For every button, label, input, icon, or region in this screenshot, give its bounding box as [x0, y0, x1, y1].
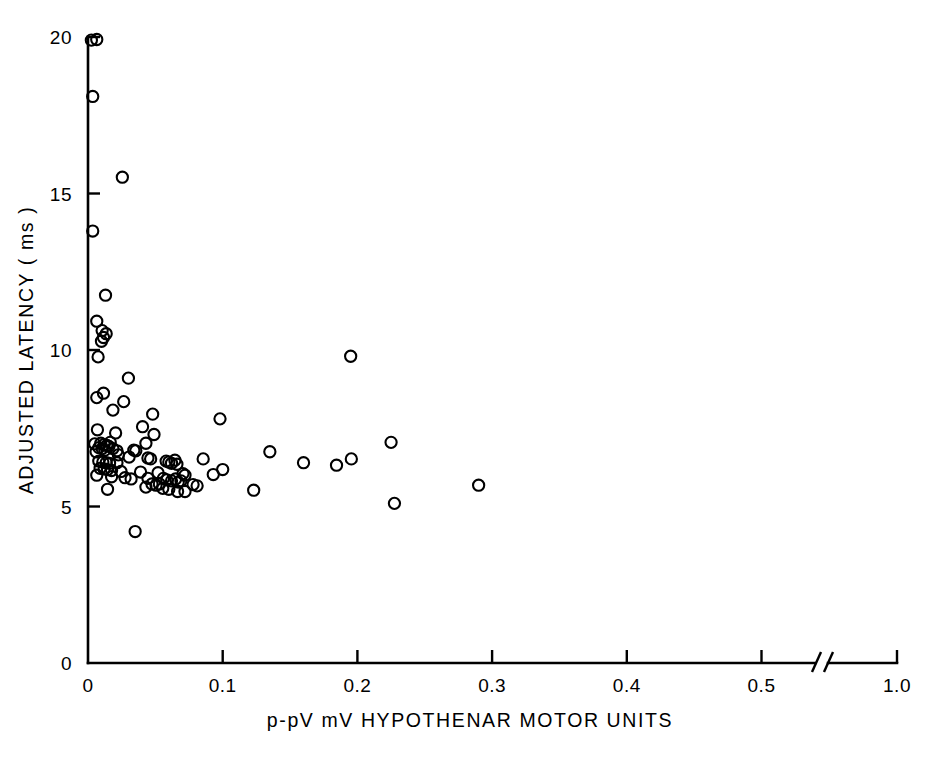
x-tick-label-0.4: 0.4: [613, 675, 641, 696]
data-point: [298, 457, 309, 468]
data-point: [346, 453, 357, 464]
y-tick-label-10: 10: [50, 340, 72, 361]
y-axis-title: ADJUSTED LATENCY ( ms ): [15, 206, 37, 495]
data-point: [179, 486, 190, 497]
x-tick-label-0.3: 0.3: [478, 675, 506, 696]
y-tick-label-20: 20: [50, 27, 72, 48]
data-point: [214, 413, 225, 424]
data-points: [86, 34, 484, 537]
data-point: [198, 453, 209, 464]
plot-canvas: 0510152000.10.20.30.40.51.0 p-pV mV HYPO…: [0, 0, 939, 760]
data-point: [123, 373, 134, 384]
data-point: [93, 351, 104, 362]
data-point: [137, 421, 148, 432]
x-tick-label-1.0: 1.0: [883, 675, 911, 696]
data-point: [473, 480, 484, 491]
data-point: [140, 438, 151, 449]
data-point: [248, 485, 259, 496]
tick-marks: [88, 37, 897, 663]
data-point: [345, 351, 356, 362]
data-point: [102, 484, 113, 495]
x-tick-label-0: 0: [82, 675, 93, 696]
data-point: [91, 470, 102, 481]
y-tick-label-5: 5: [61, 497, 72, 518]
data-point: [264, 446, 275, 457]
axes: [88, 37, 897, 672]
data-point: [331, 460, 342, 471]
data-point: [389, 498, 400, 509]
y-tick-label-15: 15: [50, 184, 72, 205]
x-tick-label-0.2: 0.2: [343, 675, 371, 696]
data-point: [100, 290, 111, 301]
data-point: [385, 437, 396, 448]
data-point: [208, 469, 219, 480]
x-tick-label-0.5: 0.5: [748, 675, 776, 696]
data-point: [107, 405, 118, 416]
scatter-plot-figure: 0510152000.10.20.30.40.51.0 p-pV mV HYPO…: [0, 0, 939, 760]
data-point: [118, 396, 129, 407]
tick-labels: 0510152000.10.20.30.40.51.0: [50, 27, 911, 696]
data-point: [92, 424, 103, 435]
y-tick-label-0: 0: [61, 653, 72, 674]
data-point: [130, 526, 141, 537]
x-axis-title: p-pV mV HYPOTHENAR MOTOR UNITS: [267, 709, 673, 731]
x-tick-label-0.1: 0.1: [209, 675, 237, 696]
data-point: [147, 409, 158, 420]
data-point: [117, 172, 128, 183]
